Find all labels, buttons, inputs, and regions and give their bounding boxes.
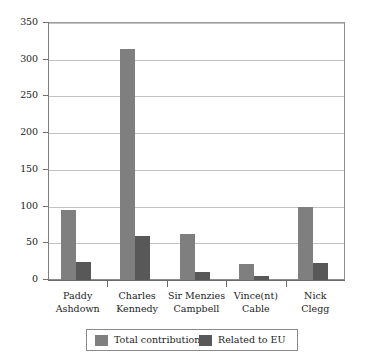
x-axis-category-label-line: Nick [286,290,345,303]
x-axis-category-label-line: Vince(nt) [226,290,285,303]
bar [76,262,91,280]
x-axis-category-label-line: Clegg [286,303,345,316]
bar [298,207,313,280]
y-axis-tick-label: 350 [20,17,38,27]
chart-legend: Total contributionsRelated to EU [86,329,298,351]
x-axis-category-label-line: Sir Menzies [167,290,226,303]
bar [239,264,254,280]
x-axis-tick-mark [226,281,227,287]
bar [195,272,210,280]
y-axis-tick-mark [43,59,48,60]
x-axis-category-label-line: Campbell [167,303,226,316]
y-axis-tick-label: 100 [20,201,38,211]
legend-swatch [199,335,212,346]
y-axis-tick-label: 0 [32,274,38,284]
legend-entry: Total contributions [95,330,205,350]
bars-group [49,23,344,280]
bar [120,49,135,280]
bar [61,210,76,280]
x-axis-category-label: CharlesKennedy [107,290,166,315]
x-axis-tick-mark [107,281,108,287]
x-axis-category-label: NickClegg [286,290,345,315]
y-axis-tick-mark [43,95,48,96]
y-axis-tick-label: 50 [26,237,38,247]
x-axis-category-label-line: Cable [226,303,285,316]
x-axis-category-label: Sir MenziesCampbell [167,290,226,315]
y-axis-tick-mark [43,206,48,207]
y-axis-line [48,22,49,281]
y-axis-tick-label: 200 [20,127,38,137]
bar [180,234,195,280]
y-axis-tick-mark [43,169,48,170]
legend-label: Related to EU [218,335,286,345]
x-axis-category-label-line: Paddy [48,290,107,303]
y-axis-tick-mark [43,242,48,243]
y-axis-tick-label: 250 [20,90,38,100]
x-axis-category-label-line: Charles [107,290,166,303]
legend-swatch [95,335,108,346]
legend-label: Total contributions [114,335,205,345]
x-axis-category-label: Vince(nt)Cable [226,290,285,315]
bar [313,263,328,280]
x-axis-tick-mark [167,281,168,287]
y-axis-tick-mark [43,22,48,23]
x-axis-category-label-line: Kennedy [107,303,166,316]
x-axis-tick-mark [286,281,287,287]
x-axis-category-label-line: Ashdown [48,303,107,316]
x-axis-category-label: PaddyAshdown [48,290,107,315]
y-axis-tick-mark [43,132,48,133]
y-axis-tick-label: 300 [20,54,38,64]
legend-entry: Related to EU [199,330,286,350]
x-axis-line [48,280,345,281]
bar [135,236,150,280]
y-axis-tick-label: 150 [20,164,38,174]
bar-chart-figure: 050100150200250300350 PaddyAshdownCharle… [0,0,365,363]
